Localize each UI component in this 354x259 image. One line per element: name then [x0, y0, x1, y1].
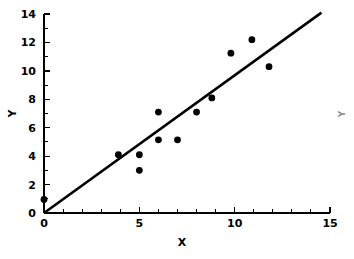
axis-titles-group: XYY [6, 109, 347, 249]
data-point [174, 136, 181, 143]
data-point [155, 109, 162, 116]
data-point [248, 36, 255, 43]
x-tick-label: 10 [227, 217, 243, 230]
x-tick-label: 0 [40, 217, 48, 230]
edge-axis-label: Y [337, 110, 347, 118]
x-axis-title: X [178, 236, 187, 249]
y-tick-label: 6 [28, 122, 36, 135]
regression-line [44, 13, 321, 213]
y-tick-label: 8 [28, 93, 36, 106]
y-tick-label: 12 [21, 36, 36, 49]
data-point [136, 167, 143, 174]
data-point [193, 109, 200, 116]
y-axis-title: Y [6, 109, 19, 119]
y-tick-label: 4 [28, 150, 36, 163]
data-point [266, 63, 273, 70]
y-tick-label: 14 [21, 8, 37, 21]
x-tick-label: 5 [136, 217, 144, 230]
regression-line-path [44, 13, 321, 213]
x-tick-label: 15 [322, 217, 337, 230]
data-point [227, 50, 234, 57]
data-point [136, 151, 143, 158]
y-tick-label: 0 [28, 207, 36, 220]
data-point [115, 151, 122, 158]
data-point [41, 196, 48, 203]
scatter-plot-figure: 05101502468101214 XYY [0, 0, 354, 259]
plot-canvas: 05101502468101214 XYY [0, 0, 354, 259]
data-point [155, 136, 162, 143]
y-tick-label: 2 [28, 179, 36, 192]
y-tick-label: 10 [21, 65, 37, 78]
data-points-group [41, 36, 273, 203]
data-point [208, 94, 215, 101]
